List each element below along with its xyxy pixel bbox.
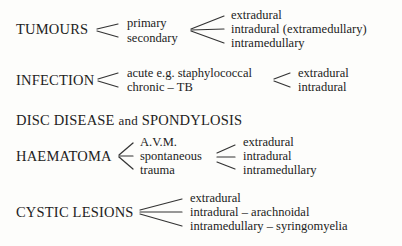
- branch-line: [98, 73, 118, 79]
- infection-acute-label: acute e.g. staphylococcal: [127, 67, 252, 80]
- branch-line: [191, 16, 224, 29]
- branch-line: [97, 31, 118, 37]
- infection-heading: INFECTION: [16, 73, 94, 88]
- haematoma-trauma-label: trauma: [140, 164, 175, 177]
- tumours-heading: TUMOURS: [16, 22, 88, 37]
- branch-line: [119, 157, 133, 169]
- infection-intradural-label: intradural: [298, 81, 347, 94]
- branch-line: [140, 214, 182, 226]
- disc-and-label: and: [119, 113, 138, 128]
- tumours-extradural-label: extradural: [231, 9, 282, 22]
- cystic-intramedullary-label: intramedullary – syringomyelia: [190, 220, 348, 233]
- infection-chronic-label: chronic – TB: [127, 81, 193, 94]
- haematoma-avm-label: A.V.M.: [140, 136, 177, 149]
- disc-disease-heading: DISC DISEASE and SPONDYLOSIS: [16, 113, 242, 128]
- tumours-primary-label: primary: [127, 17, 167, 30]
- cystic-intradural-label: intradural – arachnoidal: [190, 206, 309, 219]
- haematoma-intramedullary-label: intramedullary: [243, 164, 317, 177]
- branch-line: [97, 24, 118, 29]
- branch-line: [98, 81, 118, 87]
- tumours-secondary-label: secondary: [127, 32, 178, 45]
- branch-line: [140, 199, 182, 210]
- branch-line: [191, 29, 224, 30]
- tumours-intradural-label: intradural (extramedullary): [231, 23, 367, 36]
- spondylosis-label: SPONDYLOSIS: [142, 112, 243, 128]
- branch-line: [274, 81, 290, 87]
- tumours-intramedullary-label: intramedullary: [231, 37, 305, 50]
- cystic-lesions-heading: CYSTIC LESIONS: [16, 205, 134, 220]
- branch-line: [217, 145, 235, 153]
- haematoma-intradural-label: intradural: [243, 150, 292, 163]
- branch-line: [217, 162, 235, 169]
- cystic-extradural-label: extradural: [190, 192, 241, 205]
- branch-line: [119, 143, 133, 155]
- haematoma-spontaneous-label: spontaneous: [140, 150, 202, 163]
- haematoma-extradural-label: extradural: [243, 136, 294, 149]
- infection-extradural-label: extradural: [298, 67, 349, 80]
- disc-disease-label: DISC DISEASE: [16, 112, 115, 128]
- branch-line: [274, 73, 290, 79]
- branch-line: [191, 31, 224, 43]
- haematoma-heading: HAEMATOMA: [16, 149, 112, 164]
